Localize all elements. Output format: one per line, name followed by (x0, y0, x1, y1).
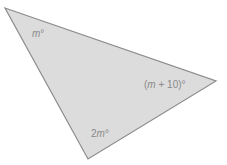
angle-suffix: + 10)° (156, 79, 186, 90)
triangle-diagram: m° (m + 10)° 2m° (0, 0, 227, 165)
angle-variable: m (32, 28, 40, 39)
angle-degree: ° (105, 128, 109, 139)
angle-label-top-left: m° (32, 28, 44, 39)
angle-variable: m (97, 128, 105, 139)
angle-label-right: (m + 10)° (144, 79, 186, 90)
angle-variable: m (147, 79, 155, 90)
angle-degree: ° (40, 28, 44, 39)
angle-label-bottom: 2m° (91, 128, 109, 139)
